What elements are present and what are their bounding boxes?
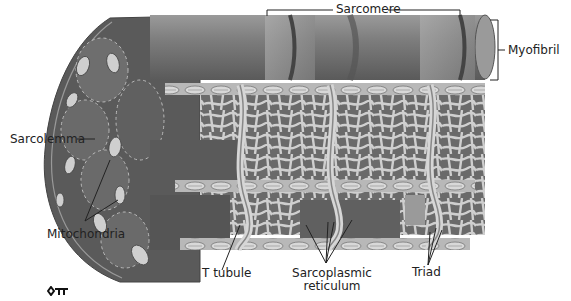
label-myofibril: Myofibril xyxy=(508,44,560,57)
myofibril-top xyxy=(150,15,495,80)
muscle-fiber-illustration xyxy=(0,0,571,301)
key-icon xyxy=(47,286,69,296)
label-mitochondria: Mitochondria xyxy=(47,228,125,241)
label-triad: Triad xyxy=(412,266,441,279)
label-sarcolemma: Sarcolemma xyxy=(10,133,85,146)
label-sarcoplasmic-line2: reticulum xyxy=(292,280,372,293)
label-t-tubule: T tubule xyxy=(202,267,251,280)
label-sarcoplasmic-reticulum: Sarcoplasmic reticulum xyxy=(292,267,372,293)
mitochondria-row-upper xyxy=(165,83,485,95)
label-sarcomere: Sarcomere xyxy=(336,3,401,16)
